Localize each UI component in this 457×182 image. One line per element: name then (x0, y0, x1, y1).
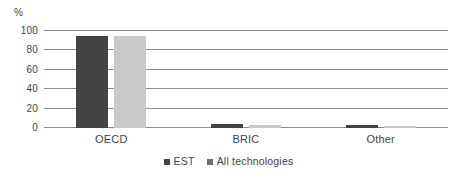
legend-swatch-icon (164, 159, 170, 165)
bar (76, 36, 108, 128)
bar (249, 125, 281, 128)
legend-label: EST (174, 156, 195, 167)
y-axis-unit-label: % (14, 8, 23, 18)
y-axis-tick-label: 100 (4, 26, 38, 36)
bar-group (211, 31, 281, 128)
legend-entry: EST (164, 156, 195, 167)
y-axis-tick-label: 80 (4, 45, 38, 55)
bar-group (76, 31, 146, 128)
y-axis-tick-labels: 020406080100 (0, 31, 38, 128)
x-axis-category-label: Other (313, 133, 448, 145)
bar-chart: % 020406080100 OECDBRICOther ESTAll tech… (0, 0, 457, 182)
y-axis-tick-label: 0 (4, 123, 38, 133)
x-axis-category-label: BRIC (179, 133, 314, 145)
x-axis-category-label: OECD (44, 133, 179, 145)
legend-entry: All technologies (207, 156, 294, 167)
legend-label: All technologies (217, 156, 294, 167)
chart-legend: ESTAll technologies (0, 156, 457, 167)
y-axis-tick-label: 20 (4, 104, 38, 114)
bars-layer (44, 31, 448, 128)
bar (384, 126, 416, 128)
bar (346, 125, 378, 128)
bar (114, 36, 146, 128)
y-axis-tick-label: 60 (4, 65, 38, 75)
bar (211, 124, 243, 128)
x-axis-category-labels: OECDBRICOther (44, 133, 448, 147)
legend-swatch-icon (207, 159, 213, 165)
y-axis-tick-label: 40 (4, 84, 38, 94)
bar-group (346, 31, 416, 128)
